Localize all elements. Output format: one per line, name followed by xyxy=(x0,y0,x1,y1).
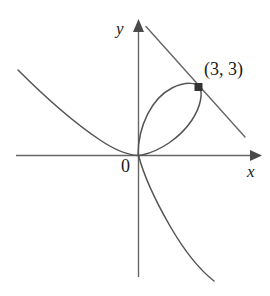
origin-label: 0 xyxy=(121,157,130,175)
x-axis-arrowhead xyxy=(250,150,262,161)
folium-loop xyxy=(138,83,201,155)
tangent-line xyxy=(146,27,245,138)
x-axis-label: x xyxy=(247,163,255,180)
point-marker-3-3 xyxy=(195,83,203,91)
y-axis-label: y xyxy=(116,20,124,37)
y-axis-arrowhead xyxy=(133,19,144,32)
point-coordinate-label: (3, 3) xyxy=(204,60,243,78)
folium-of-descartes-figure: y x 0 (3, 3) xyxy=(0,0,270,296)
folium-left-branch xyxy=(18,70,138,156)
graph-canvas xyxy=(0,0,270,296)
folium-lower-branch xyxy=(139,156,215,282)
